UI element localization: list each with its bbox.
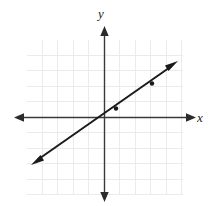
- line-point-marker: [114, 106, 118, 110]
- line-point-marker: [150, 81, 154, 85]
- coordinate-plane-figure: x y: [0, 0, 211, 206]
- x-axis-label: x: [196, 110, 203, 125]
- y-axis-label: y: [96, 6, 104, 21]
- coordinate-graph: x y: [0, 0, 211, 206]
